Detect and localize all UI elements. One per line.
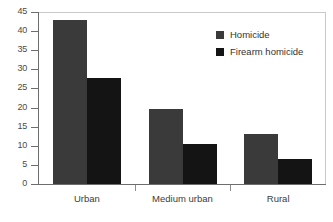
y-axis-tick [31, 146, 38, 147]
bar-medium-urban-homicide [149, 109, 183, 184]
legend-item: Firearm homicide [216, 45, 303, 59]
y-axis-tick-label: 30 [3, 64, 27, 73]
y-axis-tick [31, 184, 38, 185]
bar-urban-firearm-homicide [87, 78, 121, 184]
legend-label: Homicide [230, 30, 270, 40]
y-axis-tick [31, 108, 38, 109]
bar-rural-firearm-homicide [278, 159, 312, 184]
bar-chart: 051015202530354045 UrbanMedium urbanRura… [0, 0, 333, 222]
y-axis-tick-label: 40 [3, 26, 27, 35]
y-axis-tick [31, 127, 38, 128]
x-axis-tick [230, 185, 231, 191]
x-axis-line [38, 184, 326, 185]
y-axis-tick [31, 12, 38, 13]
y-axis-tick [31, 69, 38, 70]
y-axis-tick-label: 10 [3, 141, 27, 150]
chart-legend: HomicideFirearm homicide [216, 28, 303, 62]
x-axis-category-label: Rural [230, 193, 326, 204]
y-axis-tick [31, 165, 38, 166]
y-axis-tick-label: 15 [3, 122, 27, 131]
legend-swatch-icon [216, 48, 224, 56]
y-axis-tick-label: 35 [3, 45, 27, 54]
x-axis-category-label: Medium urban [135, 193, 231, 204]
y-axis-tick [31, 31, 38, 32]
y-axis-tick-label: 45 [3, 7, 27, 16]
y-axis-tick-label: 5 [3, 160, 27, 169]
legend-item: Homicide [216, 28, 303, 42]
y-axis-tick [31, 88, 38, 89]
bar-urban-homicide [53, 20, 87, 184]
bar-rural-homicide [244, 134, 278, 184]
y-axis-tick-label: 25 [3, 83, 27, 92]
x-axis-tick [135, 185, 136, 191]
x-axis-category-label: Urban [39, 193, 135, 204]
bar-medium-urban-firearm-homicide [183, 144, 217, 184]
y-axis-tick [31, 50, 38, 51]
legend-swatch-icon [216, 31, 224, 39]
y-axis-tick-label: 0 [3, 179, 27, 188]
legend-label: Firearm homicide [230, 47, 303, 57]
y-axis-tick-label: 20 [3, 103, 27, 112]
